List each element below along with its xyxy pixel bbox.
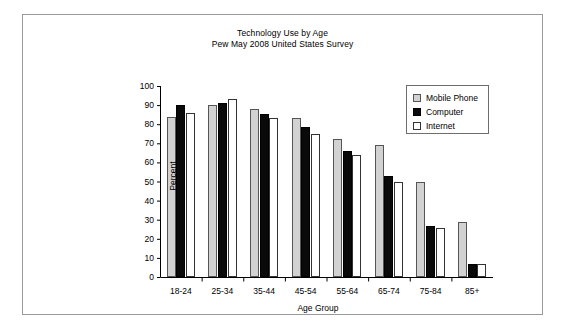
y-axis-label: Percent [168, 131, 178, 221]
bar-computer [260, 114, 269, 277]
y-tick-label: 40 [128, 197, 154, 205]
bar-internet [436, 228, 445, 277]
legend-label: Mobile Phone [426, 94, 478, 103]
bar-mobile [375, 145, 384, 277]
bar-internet [394, 182, 403, 277]
legend-swatch-internet [413, 122, 421, 130]
bar-internet [269, 118, 278, 277]
y-tick-label: 100 [128, 82, 154, 90]
bar-mobile [458, 222, 467, 277]
chart-legend: Mobile PhoneComputerInternet [406, 85, 489, 134]
y-tick-label: 50 [128, 178, 154, 186]
bar-internet [186, 113, 195, 277]
bar-computer [426, 226, 435, 277]
chart-frame: Technology Use by Age Pew May 2008 Unite… [22, 14, 543, 315]
legend-item: Mobile Phone [413, 91, 488, 105]
chart-title-block: Technology Use by Age Pew May 2008 Unite… [23, 28, 542, 50]
x-tick-label: 55-64 [327, 286, 369, 296]
y-tick-label: 0 [128, 273, 154, 281]
legend-label: Computer [426, 108, 463, 117]
y-tick-label: 20 [128, 235, 154, 243]
y-tick-label: 70 [128, 139, 154, 147]
bar-internet [311, 134, 320, 277]
bar-mobile [250, 109, 259, 277]
x-tick-label: 85+ [451, 286, 493, 296]
bar-mobile [208, 105, 217, 277]
x-tick-label: 18-24 [160, 286, 202, 296]
bar-mobile [333, 139, 342, 277]
x-tick-label: 75-84 [410, 286, 452, 296]
x-axis-label: Age Group [138, 303, 498, 313]
y-tick-label: 80 [128, 120, 154, 128]
bar-computer [468, 264, 477, 277]
bar-internet [477, 264, 486, 277]
bar-mobile [292, 118, 301, 277]
x-tick-label: 45-54 [285, 286, 327, 296]
bar-computer [218, 103, 227, 277]
bar-internet [228, 99, 237, 277]
chart-title: Technology Use by Age [23, 28, 542, 39]
x-tick-label: 35-44 [243, 286, 285, 296]
legend-swatch-computer [413, 108, 421, 116]
legend-item: Computer [413, 105, 488, 119]
chart-subtitle: Pew May 2008 United States Survey [23, 39, 542, 50]
bar-internet [352, 155, 361, 277]
bar-computer [384, 176, 393, 277]
legend-swatch-mobile [413, 94, 421, 102]
y-tick-label: 10 [128, 254, 154, 262]
bar-computer [301, 127, 310, 277]
legend-label: Internet [426, 122, 455, 131]
y-tick-label: 30 [128, 216, 154, 224]
y-tick-label: 60 [128, 158, 154, 166]
y-tick-label: 90 [128, 101, 154, 109]
legend-item: Internet [413, 119, 488, 133]
bar-mobile [416, 182, 425, 277]
x-tick-label: 25-34 [202, 286, 244, 296]
x-tick-label: 65-74 [368, 286, 410, 296]
bar-computer [343, 151, 352, 277]
